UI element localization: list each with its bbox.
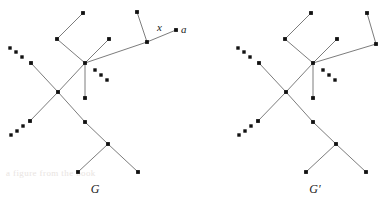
graph-drawing-canvas: xaGG′ (0, 0, 386, 205)
graph-edge (286, 92, 313, 122)
graph-vertex (257, 61, 261, 65)
graph-G: xaG (8, 10, 187, 196)
graph-edge (58, 92, 85, 122)
graph-edge (78, 144, 108, 172)
graph-vertex (304, 170, 308, 174)
ellipsis-dot (93, 68, 96, 71)
ellipsis-dots (236, 46, 251, 58)
graph-edge (259, 63, 286, 92)
ellipsis-dot (14, 50, 17, 53)
graph-vertex (311, 120, 315, 124)
ellipsis-dot (333, 78, 336, 81)
ellipsis-dot (321, 68, 324, 71)
graph-vertex (28, 119, 32, 123)
ellipsis-dot (105, 78, 108, 81)
ellipsis-dot (9, 133, 12, 136)
ellipsis-dot (237, 133, 240, 136)
graph-edge (57, 39, 85, 63)
annotation-label-a: a (181, 23, 187, 35)
graph-vertex (106, 142, 110, 146)
ellipsis-dot (15, 129, 18, 132)
graph-edge (30, 92, 58, 121)
graph-vertex (145, 40, 149, 44)
ellipsis-dot (248, 55, 251, 58)
graph-figure: a figure from the book xaGG′ (0, 0, 386, 205)
ellipsis-dots (321, 68, 336, 81)
graph-edge (58, 63, 85, 92)
graph-edge (108, 144, 138, 172)
graph-vertex (256, 119, 260, 123)
graph-vertex (311, 61, 315, 65)
annotation-label-x: x (156, 21, 162, 33)
graph-edge (367, 13, 376, 44)
graph-edge (336, 144, 366, 172)
graph-vertex (374, 42, 378, 46)
graph-edge (258, 92, 286, 121)
graph-vertex (365, 11, 369, 15)
graph-vertex (76, 170, 80, 174)
ellipsis-dots (237, 124, 252, 136)
graph-edge (286, 63, 313, 92)
graph-vertex (334, 142, 338, 146)
graph-edge (285, 13, 311, 39)
ellipsis-dot (236, 46, 239, 49)
ellipsis-dots (93, 68, 108, 81)
graph-vertex (309, 11, 313, 15)
graph-vertex (364, 170, 368, 174)
ellipsis-dot (21, 124, 24, 127)
ellipsis-dot (243, 129, 246, 132)
ellipsis-dot (242, 50, 245, 53)
graph-edge (306, 144, 336, 172)
graph-edge (57, 13, 83, 39)
ellipsis-dots (8, 46, 23, 58)
ellipsis-dots (9, 124, 24, 136)
graph-edge (285, 39, 313, 63)
ellipsis-dot (8, 46, 11, 49)
graph-edge (313, 122, 336, 144)
graph-Gprime: G′ (236, 11, 378, 196)
graph-vertex (283, 37, 287, 41)
ellipsis-dot (20, 55, 23, 58)
graph-name-label-G: G (91, 182, 100, 196)
graph-edge (31, 63, 58, 92)
graph-vertex (107, 37, 111, 41)
ellipsis-dot (327, 73, 330, 76)
graph-vertex (284, 90, 288, 94)
graph-vertex (311, 96, 315, 100)
graph-vertex (29, 61, 33, 65)
graph-vertex (56, 90, 60, 94)
ellipsis-dot (99, 73, 102, 76)
graph-edge (85, 122, 108, 144)
graph-vertex (83, 61, 87, 65)
graph-vertex (335, 37, 339, 41)
graph-vertex (83, 120, 87, 124)
graph-vertex (174, 28, 178, 32)
graph-vertex (81, 11, 85, 15)
ellipsis-dot (249, 124, 252, 127)
graph-edge (137, 12, 147, 42)
graph-vertex (83, 96, 87, 100)
graph-name-label-Gprime: G′ (309, 182, 321, 196)
graph-vertex (135, 10, 139, 14)
graph-vertex (136, 170, 140, 174)
graph-vertex (55, 37, 59, 41)
graph-edge (85, 42, 147, 63)
